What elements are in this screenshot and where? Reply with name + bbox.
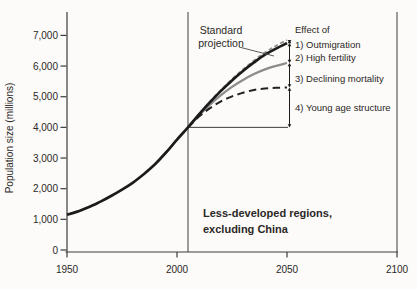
standard-projection-label-line2: projection (198, 37, 244, 49)
arrowhead-down (288, 60, 292, 63)
arrowhead-up (288, 63, 292, 66)
y-tick-label: 2,000 (33, 183, 58, 194)
arrowhead-up (288, 88, 292, 91)
effect-label-declining-mortality: 3) Declining mortality (295, 73, 384, 84)
effect-arrow-2 (288, 43, 292, 63)
y-tick-label: 7,000 (33, 30, 58, 41)
region-note-line1: Less-developed regions, (203, 207, 332, 219)
effect-label-young-age-structure: 4) Young age structure (295, 102, 391, 113)
arrowhead-down (288, 124, 292, 127)
effects-header: Effect of (295, 24, 330, 35)
replacement-fertility-projection-curve (188, 63, 287, 127)
y-axis-title: Population size (millions) (4, 83, 15, 194)
effect-label-outmigration: 1) Outmigration (295, 39, 360, 50)
y-tick-label: 1,000 (33, 214, 58, 225)
y-tick-label: 0 (52, 245, 58, 256)
x-tick-label: 1950 (56, 264, 79, 275)
y-tick-label: 4,000 (33, 122, 58, 133)
x-tick-label: 2050 (276, 264, 299, 275)
x-tick-label: 2000 (166, 264, 189, 275)
effect-arrow-3 (288, 63, 292, 88)
effect-arrow-1 (288, 40, 292, 43)
y-tick-label: 5,000 (33, 91, 58, 102)
constant-mortality-projection-curve (188, 88, 287, 128)
region-note-line2: excluding China (203, 223, 289, 235)
y-tick-label: 6,000 (33, 61, 58, 72)
x-tick-label: 2100 (386, 264, 409, 275)
standard-projection-curve (67, 43, 287, 215)
population-projection-chart: 01,0002,0003,0004,0005,0006,0007,0001950… (0, 0, 417, 289)
effect-label-high-fertility: 2) High fertility (295, 52, 356, 63)
effect-arrow-4 (288, 88, 292, 128)
y-tick-label: 3,000 (33, 153, 58, 164)
population-projection-figure: 01,0002,0003,0004,0005,0006,0007,0001950… (0, 0, 417, 289)
arrowhead-up (288, 43, 292, 46)
standard-projection-label-line1: Standard (200, 24, 243, 36)
arrowhead-down (288, 84, 292, 87)
